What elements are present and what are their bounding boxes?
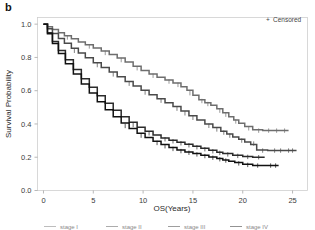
y-axis-title: Survival Probability (4, 70, 13, 138)
y-tick-label: 0.6 (21, 86, 31, 95)
bottom-legend-label: stage IV (246, 224, 268, 230)
bottom-legend-label: stage I (60, 224, 78, 230)
bottom-legend-label: stage III (184, 224, 206, 230)
x-tick-label: 25 (288, 196, 296, 205)
censored-plus-icon: + (266, 16, 270, 23)
censored-legend: + Censored (266, 16, 301, 23)
bottom-legend: stage Istage IIstage IIIstage IV (44, 224, 268, 230)
figure-panel: b 0.00.20.40.60.81.0 0510152025 OS(Years… (0, 0, 315, 230)
x-tick-label: 0 (41, 196, 45, 205)
y-tick-label: 0.8 (21, 53, 31, 62)
survival-plot: 0.00.20.40.60.81.0 0510152025 OS(Years) … (0, 0, 315, 230)
x-axis-title: OS(Years) (153, 204, 190, 213)
y-tick-label: 0.0 (21, 186, 31, 195)
km-curve (43, 24, 288, 130)
x-axis: 0510152025 (41, 191, 296, 205)
km-curve (43, 24, 264, 157)
km-curve-group (43, 24, 296, 165)
x-tick-label: 20 (239, 196, 247, 205)
censored-legend-label: Censored (273, 16, 302, 23)
km-curve (43, 24, 278, 165)
x-tick-label: 5 (91, 196, 95, 205)
y-tick-label: 1.0 (21, 20, 31, 29)
y-tick-label: 0.2 (21, 153, 31, 162)
y-axis: 0.00.20.40.60.81.0 (21, 20, 37, 195)
bottom-legend-label: stage II (122, 224, 142, 230)
y-tick-label: 0.4 (21, 120, 31, 129)
x-tick-label: 10 (139, 196, 147, 205)
